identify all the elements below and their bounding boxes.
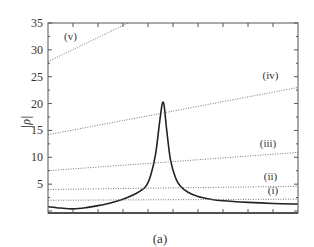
series-label: (ii): [264, 170, 278, 183]
series-labels: (v)(iv)(iii)(ii)(i): [64, 30, 279, 197]
axis-ticks: [48, 23, 298, 213]
y-tick-labels: 5101520253035: [31, 16, 43, 191]
y-tick-label: 10: [31, 150, 43, 164]
series-label: (i): [268, 184, 279, 197]
dotted-line-iv: [48, 87, 298, 134]
y-tick-label: 20: [31, 97, 43, 111]
figure-caption: (a): [153, 231, 167, 246]
resonance-chart: 5101520253035 (v)(iv)(iii)(ii)(i) |ρ| (a…: [0, 0, 314, 247]
axes-frame: [48, 23, 298, 213]
y-tick-label: 35: [31, 16, 43, 30]
y-tick-label: 5: [37, 177, 43, 191]
dotted-line-v: [48, 23, 128, 62]
dotted-line-ii: [48, 186, 298, 189]
dotted-line-i: [48, 199, 298, 200]
y-tick-label: 25: [31, 70, 43, 84]
series-label: (iv): [263, 69, 279, 82]
series-label: (iii): [260, 137, 277, 150]
plot-area: [48, 23, 298, 209]
y-axis-label: |ρ|: [19, 116, 33, 128]
series-label: (v): [64, 30, 77, 43]
y-tick-label: 30: [31, 43, 43, 57]
